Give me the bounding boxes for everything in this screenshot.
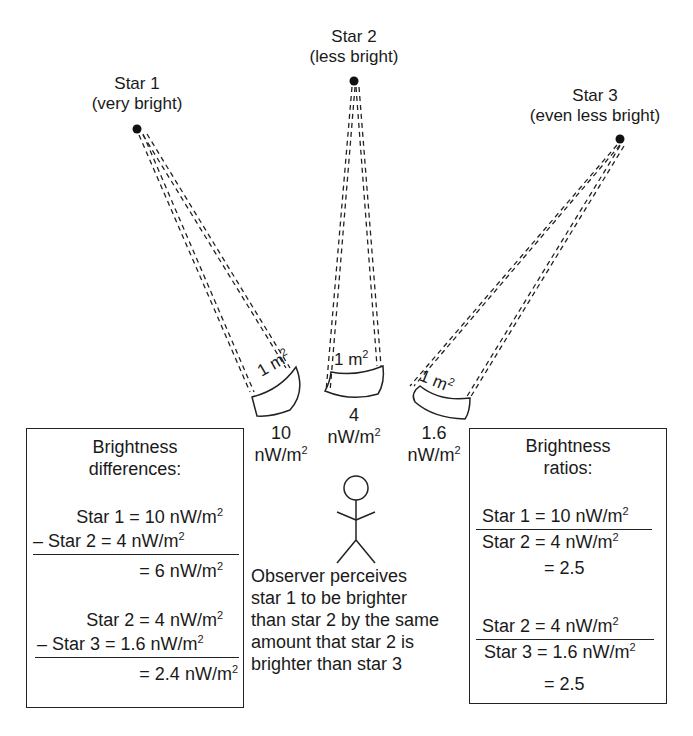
ratios-group1-result: = 2.5 <box>544 557 585 579</box>
differences-group2-rule <box>35 657 239 658</box>
star-2-label: Star 2 (less bright) <box>289 27 419 67</box>
star-2-dot-icon <box>350 77 359 86</box>
ratios-group1-denominator: Star 2 = 4 nW/m2 <box>482 531 619 553</box>
star-3-name: Star 3 <box>495 86 693 106</box>
star-1-name: Star 1 <box>71 74 203 94</box>
ratios-group1-rule <box>476 529 652 530</box>
light-beams <box>139 87 624 398</box>
ratios-group2-numerator: Star 2 = 4 nW/m2 <box>482 615 619 637</box>
differences-group1-result: = 6 nW/m2 <box>139 560 223 582</box>
ratios-group1-numerator: Star 1 = 10 nW/m2 <box>482 505 629 527</box>
brightness-ratios-box: Brightness ratios: Star 1 = 10 nW/m2 Sta… <box>469 428 667 704</box>
star-2-description: (less bright) <box>289 47 419 67</box>
ratios-group2-rule <box>476 639 654 640</box>
star-1-description: (very bright) <box>71 94 203 114</box>
detector-2-icon <box>325 366 383 397</box>
ratios-group2-result: = 2.5 <box>544 673 585 695</box>
star-3-dot-icon <box>616 135 625 144</box>
differences-group2-line1: Star 2 = 4 nW/m2 <box>86 609 223 631</box>
ratios-title-line1: Brightness <box>470 435 666 457</box>
ratios-group2-denominator: Star 3 = 1.6 nW/m2 <box>484 641 636 663</box>
detector-2-label: 1 m2 <box>334 350 368 370</box>
differences-group2-line2: – Star 3 = 1.6 nW/m2 <box>37 633 204 655</box>
differences-group1-rule <box>33 554 239 555</box>
differences-group1-line1: Star 1 = 10 nW/m2 <box>76 506 223 528</box>
star-1-label: Star 1 (very bright) <box>71 74 203 114</box>
differences-group1-line2: – Star 2 = 4 nW/m2 <box>33 530 185 552</box>
star-3-label: Star 3 (even less bright) <box>495 86 693 126</box>
star-3-flux: 1.6 nW/m2 <box>398 422 470 466</box>
brightness-differences-box: Brightness differences: Star 1 = 10 nW/m… <box>26 428 244 708</box>
star-1-flux: 10 nW/m2 <box>246 422 316 466</box>
star-3-description: (even less bright) <box>495 106 693 126</box>
differences-group2-result: = 2.4 nW/m2 <box>139 663 238 685</box>
star-2-flux: 4 nW/m2 <box>318 404 390 448</box>
star-2-name: Star 2 <box>289 27 419 47</box>
differences-title-line2: differences: <box>27 458 243 480</box>
observer-caption: Observer perceives star 1 to be brighter… <box>251 565 439 675</box>
observer-stick-figure-icon <box>337 476 375 563</box>
star-1-dot-icon <box>133 125 142 134</box>
ratios-title-line2: ratios: <box>470 457 666 479</box>
differences-title-line1: Brightness <box>27 436 243 458</box>
